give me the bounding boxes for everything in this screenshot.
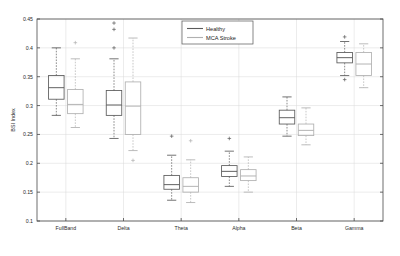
y-tick-label: 0.35 (23, 74, 33, 80)
y-tick-label: 0.4 (26, 45, 33, 51)
legend-label-0[interactable]: Healthy (206, 26, 225, 32)
y-axis-title: BSI Index (10, 108, 16, 132)
y-tick-label: 0.1 (26, 218, 33, 224)
plot-area-background (37, 19, 383, 221)
x-tick-label-delta: Delta (117, 225, 129, 231)
legend-label-1[interactable]: MCA Stroke (206, 35, 236, 41)
y-axis-label: BSI Index (10, 108, 16, 132)
x-tick-label-gamma: Gamma (345, 225, 364, 231)
y-tick-label: 0.15 (23, 189, 33, 195)
boxplot-figure: 0.10.150.20.250.30.350.40.45 FullBandDel… (0, 0, 400, 256)
x-tick-label-alpha: Alpha (232, 225, 245, 231)
y-tick-label: 0.3 (26, 103, 33, 109)
y-tick-label: 0.25 (23, 131, 33, 137)
x-tick-label-theta: Theta (175, 225, 188, 231)
x-tick-label-beta: Beta (291, 225, 302, 231)
y-tick-label: 0.2 (26, 160, 33, 166)
x-tick-label-fullband: FullBand (56, 225, 77, 231)
chart-legend[interactable]: HealthyMCA Stroke (182, 21, 253, 44)
y-tick-label: 0.45 (23, 16, 33, 22)
